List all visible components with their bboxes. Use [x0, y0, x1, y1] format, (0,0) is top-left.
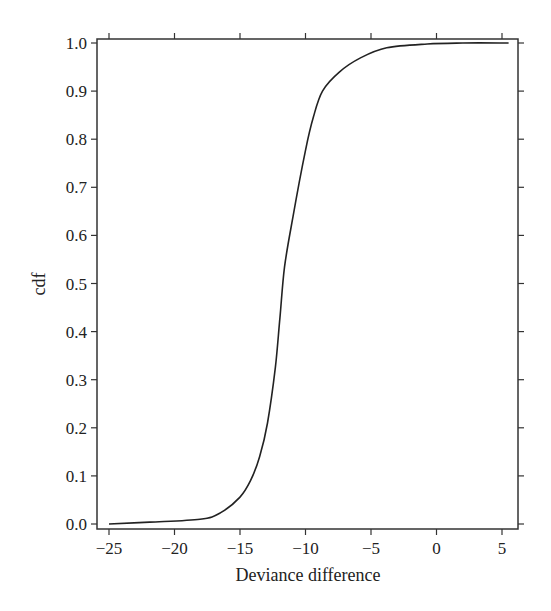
y-tick-label: 0.1: [66, 467, 87, 486]
x-axis-title: Deviance difference: [235, 565, 380, 585]
y-tick-label: 0.7: [66, 178, 88, 197]
y-tick-label: 0.5: [66, 275, 87, 294]
cdf-chart: −25−20−15−10−505 0.00.10.20.30.40.50.60.…: [0, 0, 551, 611]
y-tick-label: 0.4: [66, 323, 88, 342]
x-tick-label: −15: [227, 539, 254, 558]
y-tick-label: 0.8: [66, 130, 87, 149]
x-tick-label: −20: [161, 539, 188, 558]
x-tick-label: 5: [498, 539, 507, 558]
x-tick-label: 0: [432, 539, 441, 558]
cdf-curve: [109, 43, 509, 524]
y-tick-label: 0.3: [66, 371, 87, 390]
y-tick-label: 1.0: [66, 34, 87, 53]
y-tick-label: 0.0: [66, 515, 87, 534]
x-axis: −25−20−15−10−505: [96, 33, 507, 558]
x-tick-label: −10: [292, 539, 319, 558]
x-tick-label: −25: [96, 539, 123, 558]
y-axis-title: cdf: [29, 273, 49, 296]
x-tick-label: −5: [362, 539, 380, 558]
plot-frame: [97, 39, 518, 529]
y-tick-label: 0.9: [66, 82, 87, 101]
y-axis: 0.00.10.20.30.40.50.60.70.80.91.0: [66, 34, 524, 534]
y-tick-label: 0.2: [66, 419, 87, 438]
y-tick-label: 0.6: [66, 226, 87, 245]
